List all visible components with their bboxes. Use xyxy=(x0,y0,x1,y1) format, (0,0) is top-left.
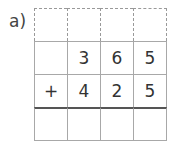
carry-cell[interactable] xyxy=(133,8,167,41)
digit-cell: 3 xyxy=(67,41,100,74)
plus-sign: + xyxy=(34,74,67,107)
addend-row-1: 3 6 5 xyxy=(34,41,167,74)
digit-cell xyxy=(34,41,67,74)
digit-cell: 4 xyxy=(67,74,100,107)
problem-label: a) xyxy=(9,11,26,31)
digit-cell: 5 xyxy=(133,74,167,107)
digit-cell: 6 xyxy=(100,41,133,74)
addend-row-2: + 4 2 5 xyxy=(34,74,167,107)
answer-cell[interactable] xyxy=(100,107,133,141)
carry-cell[interactable] xyxy=(67,8,100,41)
answer-cell[interactable] xyxy=(34,107,67,141)
carry-cell[interactable] xyxy=(100,8,133,41)
answer-row xyxy=(34,107,167,141)
digit-cell: 5 xyxy=(133,41,167,74)
carry-row xyxy=(34,8,167,41)
carry-cell[interactable] xyxy=(34,8,67,41)
digit-cell: 2 xyxy=(100,74,133,107)
column-addition-grid: 3 6 5 + 4 2 5 xyxy=(34,8,167,141)
answer-cell[interactable] xyxy=(133,107,167,141)
answer-cell[interactable] xyxy=(67,107,100,141)
